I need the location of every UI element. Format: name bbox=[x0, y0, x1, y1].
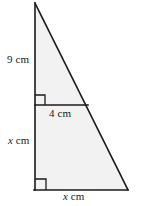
label-bottom-xcm: x cm bbox=[63, 190, 84, 202]
figure-canvas bbox=[0, 0, 158, 206]
label-left-lower-unit: cm bbox=[13, 134, 30, 146]
geometry-figure: 9 cm 4 cm x cm x cm bbox=[0, 0, 158, 206]
label-left-upper-9cm: 9 cm bbox=[7, 53, 29, 65]
label-left-lower-xcm: x cm bbox=[8, 134, 29, 146]
label-bottom-unit: cm bbox=[68, 190, 85, 202]
label-inner-4cm: 4 cm bbox=[49, 107, 71, 119]
